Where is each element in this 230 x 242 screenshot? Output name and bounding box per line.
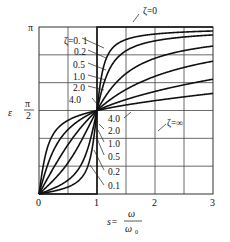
label-upper-4-0: 4.0 (69, 95, 81, 105)
grid (39, 27, 213, 194)
label-leader (133, 14, 139, 22)
label-zeta-inf: ζ=∞ (167, 118, 183, 129)
label-upper-0-1: ζ=0. 1 (64, 36, 88, 47)
label-lower-0-2: 0.2 (108, 167, 120, 177)
x-axis-label-lhs: s= (107, 216, 118, 227)
label-lower-0-5: 0.5 (108, 152, 120, 162)
label-upper-0-5: 0.5 (73, 60, 85, 70)
label-leader (158, 124, 166, 131)
label-leader (99, 124, 104, 129)
label-lower-1-0: 1.0 (108, 139, 120, 149)
x-axis-label-den-sub: 0 (135, 229, 138, 235)
y-tick-half-pi-den: 2 (26, 110, 31, 121)
label-leader (98, 130, 104, 142)
y-tick-pi: π (28, 22, 33, 33)
label-upper-0-2: 0.2 (74, 47, 86, 57)
y-tick-half-pi-num: π (25, 98, 30, 109)
label-leader (124, 112, 131, 118)
x-tick-1: 1 (94, 197, 99, 208)
x-tick-2: 2 (152, 197, 157, 208)
phase-chart: π ε π 2 0 1 2 3 s= ω ω 0 ζ=0 ζ=∞ ζ=0. 1 … (0, 0, 230, 242)
y-axis-label: ε (8, 107, 12, 118)
label-lower-0-1: 0.1 (108, 181, 120, 191)
label-upper-1-0: 1.0 (73, 72, 85, 82)
label-upper-2-0: 2.0 (73, 83, 85, 93)
label-leader (88, 86, 104, 90)
x-tick-3: 3 (210, 197, 215, 208)
x-tick-0: 0 (36, 197, 41, 208)
x-axis-label-den: ω (125, 223, 132, 234)
x-axis-label-num: ω (128, 208, 135, 219)
label-zeta-0: ζ=0 (143, 6, 157, 17)
label-lower-2-0: 2.0 (108, 126, 120, 136)
label-lower-4-0: 4.0 (108, 114, 120, 124)
label-leader (94, 150, 104, 170)
